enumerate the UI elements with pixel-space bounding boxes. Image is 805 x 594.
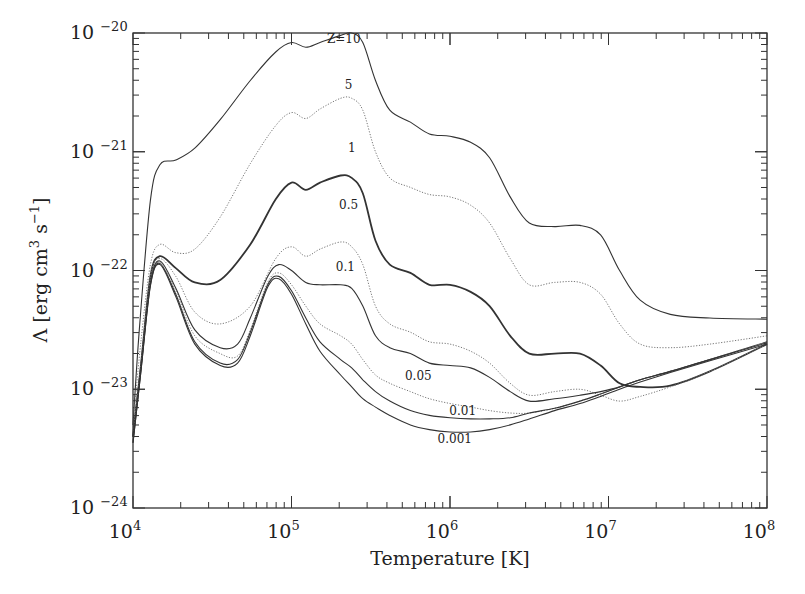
- x-tick-label: 104: [109, 518, 141, 542]
- x-tick-label: 106: [426, 518, 458, 542]
- y-axis-title: Λ [erg cm3 s−1]: [27, 197, 51, 343]
- curve-label: 0.5: [339, 198, 358, 212]
- y-tick-label: 10 −23: [70, 375, 128, 399]
- x-tick-label: 105: [267, 518, 299, 542]
- curve-label: 0.1: [336, 260, 355, 274]
- curve-label: 5: [345, 78, 353, 92]
- x-tick-label: 107: [584, 518, 616, 542]
- svg-text:Λ [erg cm3 s−1]: Λ [erg cm3 s−1]: [27, 197, 51, 343]
- y-tick-label: 10 −21: [70, 138, 128, 162]
- curves: [133, 33, 767, 443]
- curve-label: 0.001: [438, 432, 472, 446]
- cooling-function-chart: Z=10510.50.10.050.010.001 10410510610710…: [0, 0, 805, 594]
- curve-label: 0.01: [449, 404, 476, 418]
- curve-z-5: [133, 97, 767, 425]
- curve-z-1: [133, 175, 767, 437]
- x-tick-label: 108: [743, 518, 775, 542]
- curve-labels: Z=10510.50.10.050.010.001: [327, 32, 476, 446]
- curve-label: 0.05: [405, 369, 432, 383]
- x-tick-labels: 104105106107108: [109, 518, 775, 542]
- curve-label: 1: [348, 141, 356, 155]
- y-tick-label: 10 −20: [70, 19, 128, 43]
- x-axis-title: Temperature [K]: [370, 547, 530, 569]
- y-tick-label: 10 −22: [70, 257, 128, 281]
- y-tick-label: 10 −24: [70, 494, 128, 518]
- curve-z-10: [133, 33, 767, 425]
- y-tick-labels: 10 −2010 −2110 −2210 −2310 −24: [70, 19, 128, 518]
